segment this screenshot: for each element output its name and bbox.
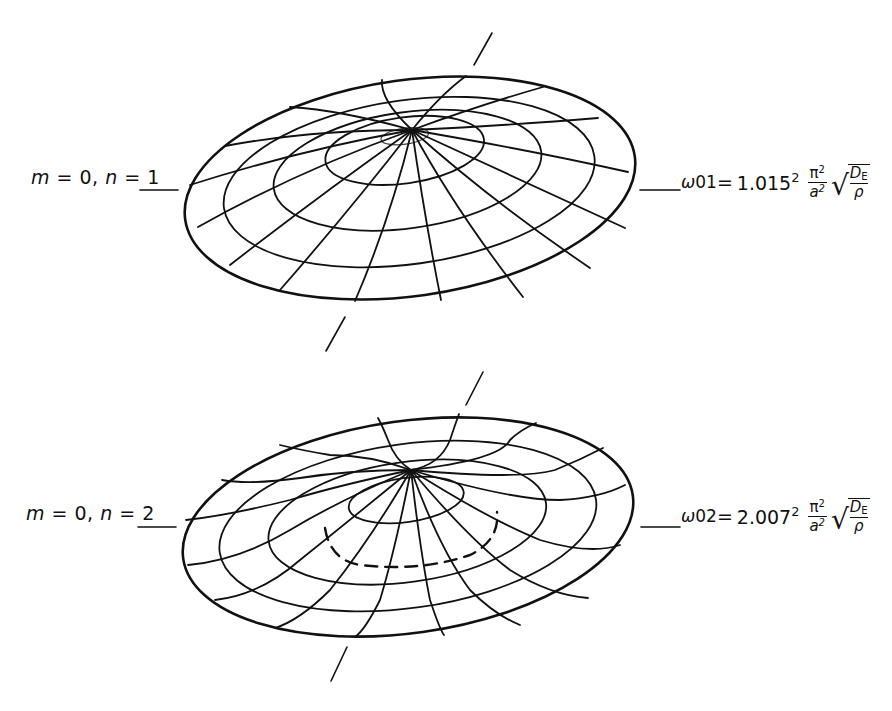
d-subscript: E [861,171,867,182]
radical-icon: √ [831,506,849,534]
plate-mode-02 [168,390,647,663]
mode-shape-diagram [0,0,892,711]
square-root: √ DE ρ [831,498,870,534]
pi-symbol: π [810,164,819,182]
nodal-circle-dashed [325,512,497,567]
n-symbol: n [105,166,118,188]
m-symbol: m [26,502,45,524]
n-symbol: n [100,502,113,524]
radicand: DE ρ [848,164,870,200]
mode-label: m = 0, n = 2 [26,502,155,524]
radicand-denominator: ρ [854,184,864,200]
radicand-numerator: DE [850,166,868,184]
pi-over-a-fraction: π2 a2 [808,499,827,534]
fraction-numerator: π2 [808,499,827,517]
fraction-denominator: a2 [809,183,825,200]
axis-tick-top [474,33,492,65]
plate-mode-01 [170,49,650,326]
radicand-numerator: DE [850,500,868,518]
mode-label: m = 0, n = 1 [31,166,160,188]
omega-subscript: 01 [695,172,717,192]
a-symbol: a [809,183,818,201]
pi-over-a-fraction: π2 a2 [808,165,827,200]
omega-symbol: ω [681,172,695,192]
omega-symbol: ω [681,506,695,526]
radial-lines-mode-01 [190,76,628,301]
square-root: √ DE ρ [831,164,870,200]
n-value: = 1 [118,166,160,188]
d-symbol: D [850,164,862,182]
radicand-denominator: ρ [854,518,864,534]
equals-sign: = [717,171,733,193]
frequency-equation: ω01 = 1.0152 π2 a2 √ DE ρ [681,164,870,200]
frequency-equation: ω02 = 2.0072 π2 a2 √ DE ρ [681,498,870,534]
coefficient: 2.0072 [737,504,800,528]
fraction-numerator: π2 [808,165,827,183]
contour-ring [213,75,606,289]
fraction-denominator: a2 [809,517,825,534]
axis-tick-top [466,372,483,405]
m-symbol: m [31,166,50,188]
denominator-exponent: 2 [819,183,825,194]
contour-ring [208,418,607,633]
omega-subscript: 02 [695,506,717,526]
n-value: = 2 [113,502,155,524]
coefficient-value: 2.007 [737,506,791,528]
coefficient-exponent: 2 [791,170,799,185]
m-value: = 0, [45,502,100,524]
radicand: DE ρ [848,498,870,534]
numerator-exponent: 2 [819,164,825,175]
axis-tick-bottom [331,647,347,681]
equals-sign: = [717,505,733,527]
d-symbol: D [850,498,862,516]
d-subscript: E [861,505,867,516]
pi-symbol: π [810,498,819,516]
coefficient-exponent: 2 [791,504,799,519]
contour-ring [321,107,489,195]
plate-boundary [170,49,650,326]
denominator-exponent: 2 [819,517,825,528]
numerator-exponent: 2 [819,498,825,509]
coefficient: 1.0152 [737,170,800,194]
radial-lines-mode-02 [186,414,625,637]
m-value: = 0, [50,166,105,188]
axis-tick-bottom [326,317,345,351]
coefficient-value: 1.015 [737,172,791,194]
a-symbol: a [809,517,818,535]
radical-icon: √ [831,172,849,200]
plate-boundary [168,390,647,663]
